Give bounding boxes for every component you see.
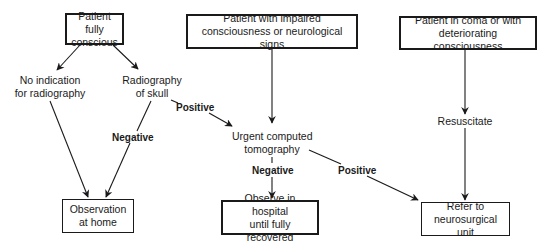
node-text-line2: consciousness or neurological signs [191,25,353,51]
node-text-line1: Patient fully [70,10,119,36]
edge-label-radiography-positive: Positive [176,101,214,114]
node-radiography-of-skull: Radiography of skull [120,74,184,100]
edge-label-ct-negative: Negative [252,164,294,177]
arrow-conscious-to-no-indication [57,45,80,70]
node-text-line2: tomography [232,143,312,156]
node-text-line1: Observation [70,203,127,216]
node-text-line2: neurosurgical unit [425,213,506,239]
node-refer-to-neurosurgical-unit: Refer to neurosurgical unit [421,202,510,236]
node-text-line2: for radiography [10,87,90,100]
node-observe-in-hospital: Observe in hospital until fully recovere… [221,200,319,235]
node-patient-fully-conscious: Patient fully conscious [65,13,124,45]
node-no-indication-for-radiography: No indication for radiography [10,74,90,100]
node-text-line2: of skull [120,87,184,100]
node-text-line2: conscious [71,36,118,49]
node-text: Resuscitate [438,115,493,127]
head-injury-flowchart: Patient fully conscious Patient with imp… [0,0,543,247]
node-text-line1: Patient with impaired [223,12,320,25]
node-patient-impaired-consciousness: Patient with impaired consciousness or n… [186,14,358,49]
node-resuscitate: Resuscitate [435,115,495,128]
arrow-radiography-positive-lower [209,113,232,126]
edge-label-ct-positive: Positive [338,164,376,177]
node-text-line1: Radiography [120,74,184,87]
node-text-line2: deteriorating consciousness [404,27,532,53]
node-text-line1: Observe in hospital [226,192,314,218]
node-text-line1: Patient in coma or with [415,14,521,27]
node-urgent-computed-tomography: Urgent computed tomography [232,130,312,156]
edge-label-text: Positive [338,165,376,176]
node-text-line2: at home [79,216,117,229]
arrow-radiography-negative-lower [106,143,130,197]
node-text-line2: until fully recovered [226,218,314,244]
node-text-line1: Refer to [447,200,484,213]
edge-label-text: Positive [176,102,214,113]
arrow-no-indication-to-home [50,101,88,197]
node-patient-in-coma: Patient in coma or with deteriorating co… [399,16,537,50]
node-text-line1: Urgent computed [232,130,312,143]
node-observation-at-home: Observation at home [62,199,134,233]
arrow-ct-positive-lower [367,176,418,200]
arrow-radiography-negative-upper [137,101,151,131]
node-text-line1: No indication [10,74,90,87]
edge-label-text: Negative [252,165,294,176]
edge-label-radiography-negative: Negative [112,131,154,144]
arrow-ct-positive-upper [309,150,341,164]
edge-label-text: Negative [112,132,154,143]
arrow-conscious-to-radiography [113,45,138,69]
